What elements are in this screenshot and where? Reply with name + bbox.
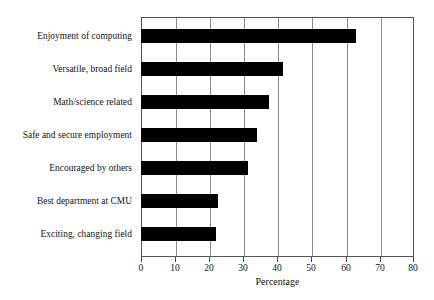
tick-label-20: 20: [204, 262, 214, 274]
tick-label-70: 70: [375, 262, 385, 274]
bars-layer: [141, 17, 414, 257]
x-axis-ticks: 0 10 20 30 40 50 60 70 80: [141, 257, 414, 263]
category-label-4: Encouraged by others: [0, 163, 132, 174]
tick-label-10: 10: [170, 262, 180, 274]
bar-math-science-related: [141, 95, 269, 109]
bar-versatile-broad-field: [141, 62, 283, 76]
category-label-0: Enjoyment of computing: [0, 31, 132, 42]
tick-label-60: 60: [341, 262, 351, 274]
bar-encouraged-by-others: [141, 161, 248, 175]
tick-label-80: 80: [408, 262, 418, 274]
category-label-6: Exciting, changing field: [0, 229, 132, 240]
tick-label-50: 50: [306, 262, 316, 274]
tick-label-40: 40: [272, 262, 282, 274]
category-label-3: Safe and secure employment: [0, 130, 132, 141]
bar-chart: Enjoyment of computing Versatile, broad …: [0, 0, 434, 300]
bar-exciting-changing-field: [141, 227, 216, 241]
bar-best-department-at-cmu: [141, 194, 218, 208]
x-axis-title: Percentage: [141, 276, 414, 288]
category-label-5: Best department at CMU: [0, 196, 132, 207]
bar-safe-and-secure-employment: [141, 128, 257, 142]
category-label-2: Math/science related: [0, 97, 132, 108]
tick-label-0: 0: [139, 262, 144, 274]
tick-label-30: 30: [238, 262, 248, 274]
bar-enjoyment-of-computing: [141, 29, 356, 43]
category-axis-labels: Enjoyment of computing Versatile, broad …: [0, 17, 136, 257]
category-label-1: Versatile, broad field: [0, 64, 132, 75]
